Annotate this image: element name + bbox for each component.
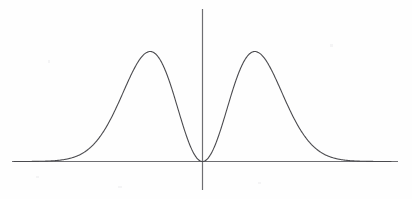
chart-figure (0, 0, 412, 199)
axes-group (12, 9, 398, 190)
plot-canvas (0, 0, 412, 199)
